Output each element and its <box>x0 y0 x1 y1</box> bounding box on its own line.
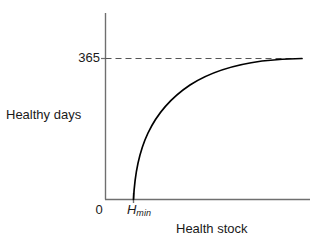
x-axis-label: Health stock <box>176 222 248 235</box>
hmin-symbol: H <box>127 202 136 217</box>
health-production-function-figure: Healthy days Health stock 365 0 Hmin <box>0 0 317 241</box>
y-axis-tick-label-365: 365 <box>56 51 100 64</box>
x-axis-tick-label-zero: 0 <box>92 203 106 216</box>
y-axis-label: Healthy days <box>6 108 81 121</box>
healthy-days-curve <box>134 59 303 200</box>
x-axis-tick-label-hmin: Hmin <box>120 203 158 218</box>
hmin-subscript: min <box>136 208 151 218</box>
